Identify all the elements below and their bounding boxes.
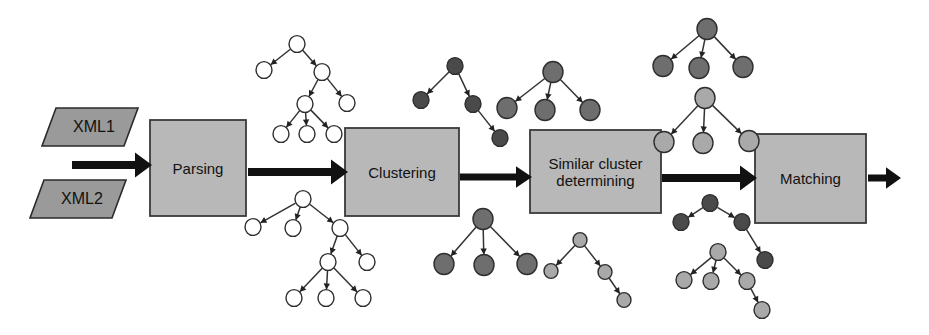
tree-node bbox=[273, 126, 289, 143]
tree-node bbox=[697, 19, 717, 40]
tree-node bbox=[734, 214, 750, 231]
tree-node bbox=[673, 214, 689, 231]
tree-node bbox=[355, 290, 371, 307]
tree-node bbox=[314, 64, 330, 81]
stage-box-parsing[interactable] bbox=[150, 120, 246, 216]
pipeline-diagram: XML1XML2ParsingClusteringSimilar cluster… bbox=[0, 0, 929, 335]
tree-node bbox=[580, 100, 600, 121]
input-shape-xml1 bbox=[42, 108, 138, 146]
tree-edge-arrowhead bbox=[324, 283, 330, 289]
tree-cluster-tree-top-b bbox=[497, 62, 600, 121]
arrow-input-to-parsing bbox=[72, 153, 152, 178]
tree-node bbox=[286, 290, 302, 307]
tree-node bbox=[297, 96, 313, 113]
tree-node bbox=[653, 56, 673, 77]
tree-node bbox=[617, 293, 631, 308]
tree-node bbox=[702, 195, 718, 212]
tree-node bbox=[434, 254, 454, 275]
tree-node bbox=[703, 273, 719, 290]
tree-node bbox=[693, 133, 713, 154]
tree-node bbox=[543, 62, 563, 83]
arrow-similar-to-matching bbox=[662, 166, 757, 191]
tree-node bbox=[447, 58, 463, 75]
tree-node bbox=[473, 209, 493, 230]
tree-node bbox=[256, 62, 272, 79]
tree-edge-arrowhead bbox=[303, 119, 309, 125]
tree-edge-arrowhead bbox=[699, 51, 705, 58]
tree-node bbox=[497, 98, 517, 119]
tree-node bbox=[544, 264, 558, 279]
tree-node bbox=[285, 220, 301, 237]
tree-cluster-tree-bottom-light bbox=[544, 233, 631, 308]
tree-node bbox=[517, 254, 537, 275]
tree-edge-arrowhead bbox=[480, 248, 486, 254]
tree-match-tree-light bbox=[676, 244, 770, 319]
tree-node bbox=[326, 126, 342, 143]
diagram-canvas bbox=[0, 0, 929, 335]
tree-node bbox=[654, 132, 674, 153]
tree-node bbox=[339, 95, 355, 112]
tree-node bbox=[299, 126, 315, 143]
tree-node bbox=[598, 265, 612, 280]
stage-box-similar[interactable] bbox=[530, 130, 661, 213]
stage-box-matching[interactable] bbox=[755, 134, 866, 223]
tree-node bbox=[474, 255, 494, 276]
tree-node bbox=[413, 92, 429, 109]
tree-node bbox=[492, 130, 508, 147]
stage-box-clustering[interactable] bbox=[345, 128, 459, 216]
tree-edge bbox=[713, 105, 742, 133]
arrow-parsing-to-clustering bbox=[248, 160, 348, 185]
tree-similar-tree-top-dark bbox=[653, 19, 753, 79]
tree-node bbox=[295, 191, 311, 208]
tree-edge-arrowhead bbox=[545, 93, 551, 100]
tree-node bbox=[359, 254, 375, 271]
tree-node bbox=[573, 233, 587, 248]
tree-node bbox=[535, 100, 555, 121]
tree-cluster-tree-bottom-dark bbox=[434, 209, 537, 276]
tree-node bbox=[465, 96, 481, 113]
input-shape-xml2 bbox=[30, 180, 126, 218]
tree-node bbox=[689, 58, 709, 79]
tree-node bbox=[757, 252, 773, 269]
tree-node bbox=[733, 57, 753, 78]
tree-node bbox=[320, 254, 336, 271]
tree-node bbox=[245, 219, 261, 236]
tree-node bbox=[739, 131, 759, 152]
tree-edge bbox=[490, 227, 519, 257]
tree-node bbox=[739, 273, 755, 290]
tree-edge-arrowhead bbox=[701, 126, 707, 132]
arrow-clustering-to-similar bbox=[460, 166, 532, 188]
tree-node bbox=[676, 272, 692, 289]
tree-edge-arrowhead bbox=[711, 266, 717, 273]
tree-node bbox=[318, 290, 334, 307]
tree-parsed-tree-top-left bbox=[256, 36, 355, 143]
tree-node bbox=[332, 220, 348, 237]
arrow-matching-to-output bbox=[868, 167, 901, 189]
tree-node bbox=[754, 302, 770, 319]
tree-node bbox=[695, 88, 715, 109]
tree-node bbox=[289, 36, 305, 53]
tree-node bbox=[710, 244, 726, 261]
tree-similar-tree-top-light bbox=[654, 88, 759, 154]
